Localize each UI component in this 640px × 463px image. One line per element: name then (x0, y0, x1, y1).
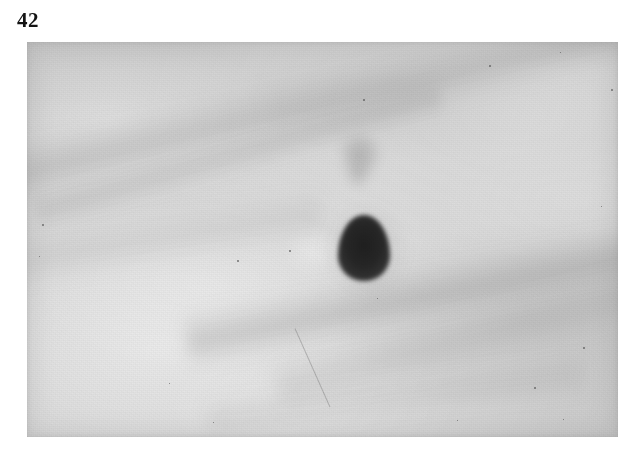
faint-secondary-spot-tail (345, 160, 371, 190)
dust-speck (601, 206, 602, 207)
page-canvas: 42 (0, 0, 640, 463)
upper-diagonal-streak (27, 42, 618, 211)
figure-number-label: 42 (17, 7, 39, 33)
photographic-plate-image (27, 42, 618, 437)
mid-left-diagonal-streak (27, 187, 327, 292)
bottom-diagonal-streak (204, 352, 587, 437)
dust-speck (289, 250, 291, 252)
dust-speck (169, 383, 170, 384)
dust-speck (563, 419, 564, 420)
dust-speck (42, 224, 44, 226)
dust-speck (377, 298, 378, 299)
dust-speck (213, 422, 214, 423)
dust-speck (534, 387, 536, 389)
dust-speck (39, 256, 40, 257)
dust-speck (583, 347, 585, 349)
dust-speck (363, 99, 365, 101)
hairline-scratch (295, 328, 331, 407)
dust-speck (457, 420, 458, 421)
dust-speck (560, 52, 561, 53)
dust-speck (611, 89, 613, 91)
dust-speck (489, 65, 491, 67)
lower-diagonal-streak-secondary (269, 252, 618, 417)
dust-speck (237, 260, 239, 262)
